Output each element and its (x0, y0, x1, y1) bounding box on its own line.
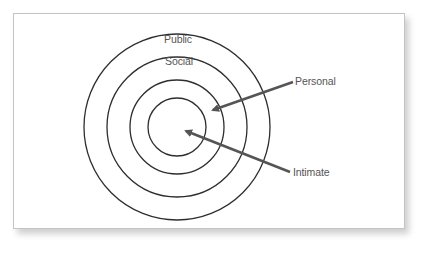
social-label: Social (165, 55, 193, 67)
intimate-label: Intimate (293, 166, 330, 178)
intimate-zone-circle (148, 98, 206, 156)
diagram-canvas: Public Social Personal Intimate (0, 0, 424, 258)
concentric-zones-diagram (0, 0, 424, 258)
personal-label: Personal (295, 75, 336, 87)
social-zone-circle (107, 57, 247, 197)
public-label: Public (164, 33, 192, 45)
personal-arrow (213, 82, 293, 110)
intimate-arrow (186, 131, 290, 172)
personal-zone-circle (130, 80, 224, 174)
